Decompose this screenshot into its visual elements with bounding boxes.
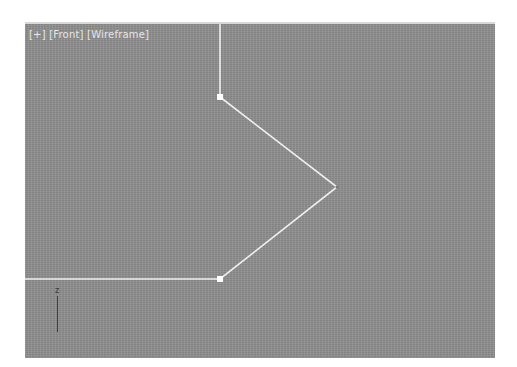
page: [+] [Front] [Wireframe] z: [0, 0, 517, 367]
z-axis-icon: [57, 296, 58, 332]
front-viewport[interactable]: [+] [Front] [Wireframe] z: [25, 22, 495, 358]
axis-gizmo: z: [50, 286, 70, 336]
vertex-apex[interactable]: [336, 186, 339, 189]
z-axis-label: z: [55, 286, 59, 295]
spline-shape[interactable]: [25, 24, 495, 358]
spline-path[interactable]: [25, 24, 337, 279]
vertex-handle-upper[interactable]: [217, 94, 223, 100]
vertex-handle-lower[interactable]: [217, 276, 223, 282]
